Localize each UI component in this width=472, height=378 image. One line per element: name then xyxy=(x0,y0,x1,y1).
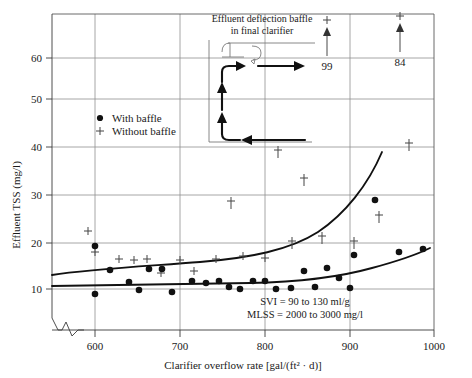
y-tick-10: 10 xyxy=(31,283,43,295)
x-tick-800: 800 xyxy=(257,340,274,352)
y-tick-30: 30 xyxy=(31,189,43,201)
data-point xyxy=(92,291,99,298)
legend-marker-without-baffle xyxy=(96,127,104,135)
data-point xyxy=(146,266,153,273)
data-point xyxy=(273,286,280,293)
x-tick-600: 600 xyxy=(87,340,104,352)
data-point xyxy=(262,278,269,285)
data-point xyxy=(351,252,358,259)
offscale-marker-99: 99 xyxy=(322,16,334,72)
inset-flow-elbow-bottom xyxy=(222,134,240,140)
data-point xyxy=(396,249,403,256)
data-point xyxy=(324,265,331,272)
y-tick-20: 20 xyxy=(31,237,43,249)
plus-marker xyxy=(405,139,413,151)
data-point xyxy=(226,284,233,291)
data-point xyxy=(420,246,427,253)
data-point xyxy=(347,285,354,292)
plus-marker xyxy=(143,255,151,263)
plus-marker xyxy=(261,254,269,262)
inset-arrowhead-5 xyxy=(241,135,252,145)
inset-arrowhead-1 xyxy=(236,61,246,71)
plus-marker xyxy=(318,232,326,244)
plus-marker xyxy=(130,256,138,264)
plus-marker xyxy=(84,227,92,235)
data-point xyxy=(136,287,143,294)
offscale-label-84: 84 xyxy=(395,56,407,68)
data-point xyxy=(107,267,114,274)
data-point xyxy=(189,278,196,285)
plus-marker xyxy=(300,174,308,186)
data-point xyxy=(159,266,166,273)
data-point xyxy=(216,278,223,285)
y-axis-ticks: 60 50 40 30 20 10 xyxy=(31,52,52,295)
y-axis-label: Effluent TSS (mg/l) xyxy=(10,161,23,249)
inset-title-line2: in final clarifier xyxy=(231,25,294,36)
data-point xyxy=(250,278,257,285)
annotation-mlss: MLSS = 2000 to 3000 mg/l xyxy=(247,309,363,320)
x-tick-900: 900 xyxy=(342,340,359,352)
inset-flow-arrow-up-right xyxy=(222,66,237,82)
inset-arrowhead-3 xyxy=(217,82,227,93)
plus-marker xyxy=(190,267,198,275)
inset-baffle-icon xyxy=(222,43,230,57)
offscale-label-99: 99 xyxy=(322,60,334,72)
legend-label-without-baffle: Without baffle xyxy=(112,125,176,137)
figure-effluent-tss-vs-overflow-rate: 60 50 40 30 20 10 600 700 800 900 1000 C… xyxy=(0,0,472,378)
data-point xyxy=(92,243,99,250)
inset-arrowhead-2 xyxy=(294,61,305,71)
trend-curve-without-baffle xyxy=(52,152,382,275)
plus-marker xyxy=(274,146,282,158)
inset-arrowhead-4 xyxy=(217,112,227,123)
data-point xyxy=(126,279,133,286)
data-point xyxy=(372,197,379,204)
data-point xyxy=(336,275,343,282)
plus-marker xyxy=(239,252,247,260)
legend-marker-with-baffle xyxy=(97,115,103,121)
data-point xyxy=(288,285,295,292)
plus-marker xyxy=(227,197,235,209)
inset-diagram: Effluent deflection baffle in final clar… xyxy=(209,13,315,145)
x-axis-label: Clarifier overflow rate [gal/(ft² · d)] xyxy=(164,359,322,372)
annotation-svi: SVI = 90 to 130 ml/g xyxy=(260,296,350,307)
plus-marker xyxy=(212,255,220,263)
plus-marker xyxy=(375,211,383,223)
y-tick-60: 60 xyxy=(31,52,43,64)
offscale-arrowhead-99 xyxy=(323,27,331,36)
chart-svg: 60 50 40 30 20 10 600 700 800 900 1000 C… xyxy=(0,0,472,378)
x-tick-700: 700 xyxy=(172,340,189,352)
offscale-marker-84: 84 xyxy=(395,12,407,68)
inset-eddy-arrowhead xyxy=(251,59,255,64)
data-point xyxy=(237,286,244,293)
data-point xyxy=(203,280,210,287)
legend-label-with-baffle: With baffle xyxy=(112,112,162,124)
x-axis-ticks: 600 700 800 900 1000 xyxy=(87,330,446,352)
y-tick-40: 40 xyxy=(31,141,43,153)
legend: With baffle Without baffle xyxy=(96,112,176,137)
inset-title-line1: Effluent deflection baffle xyxy=(212,13,313,24)
y-tick-50: 50 xyxy=(31,93,43,105)
offscale-arrowhead-84 xyxy=(396,23,404,32)
data-point xyxy=(169,289,176,296)
data-point xyxy=(312,284,319,291)
x-tick-1000: 1000 xyxy=(423,340,446,352)
plus-marker xyxy=(115,255,123,263)
data-point xyxy=(301,268,308,275)
